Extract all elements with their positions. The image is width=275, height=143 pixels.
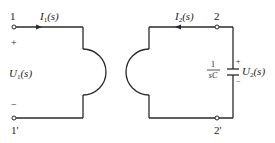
voltage-u2-label: U2(s) — [242, 65, 265, 79]
current-i2-label: I2(s) — [174, 10, 194, 24]
current-arrow-i1-icon — [36, 25, 42, 30]
voltage-u1-label: U1(s) — [9, 67, 32, 81]
voltage-u2-plus: + — [236, 57, 241, 66]
voltage-u1-plus: + — [11, 37, 17, 48]
terminal-2-prime — [215, 116, 219, 120]
secondary-loop — [126, 25, 239, 121]
current-i1-label: I1(s) — [39, 10, 59, 24]
terminal-2 — [215, 25, 219, 29]
circuit-diagram: 1 1' I1(s) + U1(s) − 2 2' I2(s) 1 sC + U… — [0, 0, 275, 143]
terminal-1-label: 1 — [10, 10, 16, 22]
terminal-1-prime-label: 1' — [11, 124, 19, 136]
capacitor-impedance-numerator: 1 — [211, 60, 215, 69]
terminal-1-prime — [12, 116, 16, 120]
primary-coil-arc — [83, 49, 106, 95]
voltage-u2-minus: − — [236, 77, 241, 86]
capacitor-impedance-denominator: sC — [209, 71, 218, 80]
terminal-2-label: 2 — [214, 10, 220, 22]
secondary-coil-arc — [126, 49, 149, 95]
current-arrow-i2-icon — [175, 25, 181, 30]
terminal-1 — [12, 25, 16, 29]
terminal-2-prime-label: 2' — [214, 124, 222, 136]
voltage-u1-minus: − — [11, 99, 17, 110]
